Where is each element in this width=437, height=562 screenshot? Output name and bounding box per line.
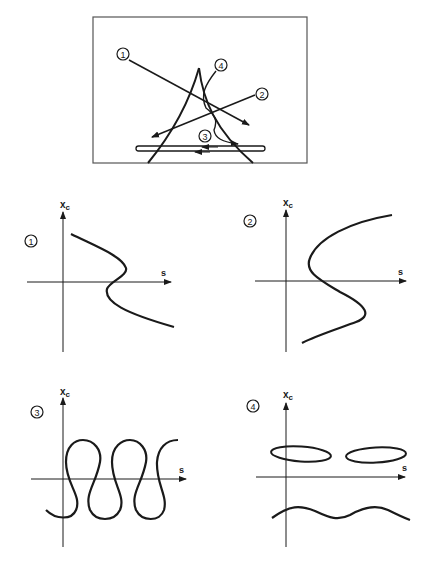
panel-4-y-label: xc xyxy=(283,389,294,402)
cusp-left-branch xyxy=(148,68,199,163)
svg-text:3: 3 xyxy=(34,408,39,418)
diagram-canvas: 1 4 2 3 1 xc s 2 xc xyxy=(0,0,437,562)
panel-4: 4 xc s xyxy=(247,389,410,547)
panel-1-x-label: s xyxy=(161,268,166,278)
panel-2-badge: 2 xyxy=(244,215,256,227)
svg-text:4: 4 xyxy=(218,61,223,71)
panel-2-x-label: s xyxy=(398,267,403,277)
trajectory-1 xyxy=(129,60,249,125)
panel-1-badge: 1 xyxy=(25,235,37,247)
label-circle-1: 1 xyxy=(117,48,129,60)
label-circle-4: 4 xyxy=(215,59,227,71)
svg-text:1: 1 xyxy=(28,237,33,247)
svg-text:1: 1 xyxy=(120,50,125,60)
panel-3-badge: 3 xyxy=(31,406,43,418)
panel-3-x-label: s xyxy=(179,465,184,475)
panel-1-curve xyxy=(71,234,174,327)
panel-4-wave xyxy=(272,507,410,520)
panel-2: 2 xc s xyxy=(244,197,406,352)
label-circle-3: 3 xyxy=(199,130,211,142)
svg-text:2: 2 xyxy=(259,90,264,100)
panel-2-curve xyxy=(302,215,392,343)
svg-text:4: 4 xyxy=(250,402,255,412)
rail xyxy=(136,146,265,151)
panel-4-ellipse-left xyxy=(271,444,332,463)
panel-4-badge: 4 xyxy=(247,400,259,412)
schematic-frame xyxy=(93,17,307,163)
top-schematic: 1 4 2 3 xyxy=(93,17,307,163)
label-circle-2: 2 xyxy=(256,88,268,100)
svg-text:3: 3 xyxy=(202,132,207,142)
panel-1: 1 xc s xyxy=(25,199,174,352)
cusp-right-branch xyxy=(199,68,253,163)
panel-4-x-label: s xyxy=(402,463,407,473)
panel-2-y-label: xc xyxy=(283,197,294,210)
panel-1-y-label: xc xyxy=(60,199,71,212)
panel-4-ellipse-right xyxy=(346,446,407,464)
panel-3: 3 xc s xyxy=(31,386,186,547)
panel-3-y-label: xc xyxy=(60,386,71,399)
svg-text:2: 2 xyxy=(247,217,252,227)
